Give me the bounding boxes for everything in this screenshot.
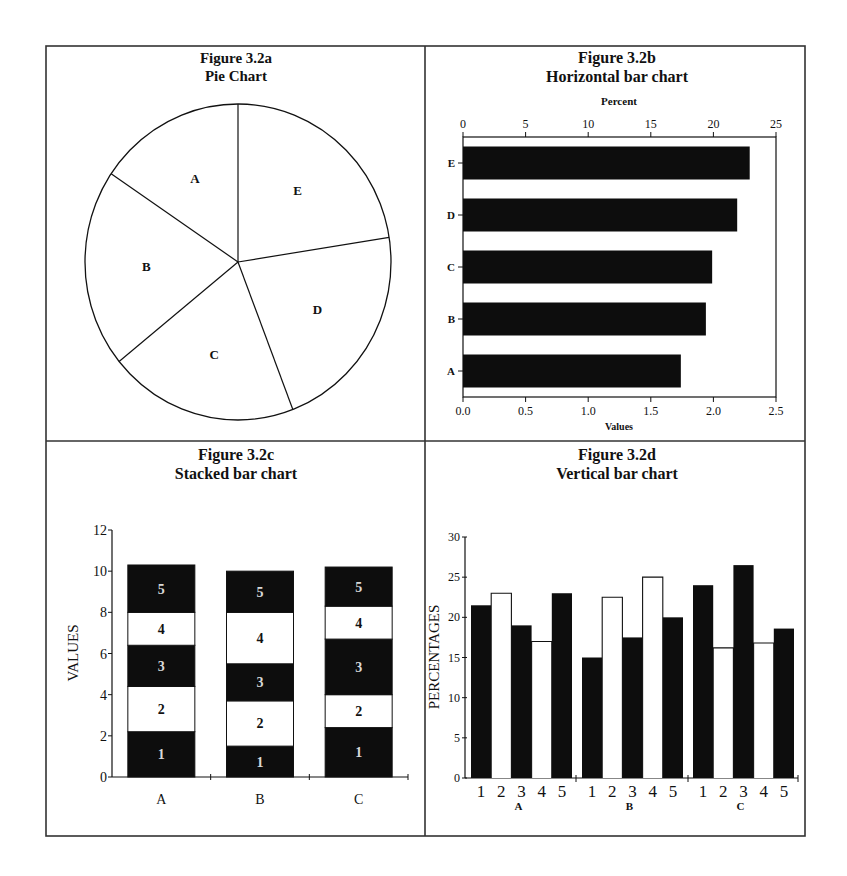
panel-c-subtitle: Stacked bar chart bbox=[175, 465, 298, 482]
segment-label: 2 bbox=[355, 704, 362, 719]
segment-label: 2 bbox=[158, 702, 165, 717]
y-tick-label: 8 bbox=[100, 605, 107, 620]
bar-B bbox=[463, 303, 706, 336]
sub-category-label: 1 bbox=[699, 782, 708, 801]
x-tick-label: 1.5 bbox=[643, 404, 658, 418]
sub-category-label: 1 bbox=[477, 782, 486, 801]
panel-d-title: Figure 3.2d bbox=[578, 446, 656, 464]
segment-label: 5 bbox=[158, 582, 165, 597]
sub-category-label: 2 bbox=[719, 782, 728, 801]
sub-category-label: 4 bbox=[759, 782, 768, 801]
y-tick-label: 30 bbox=[448, 530, 460, 544]
y-category-label: D bbox=[447, 209, 455, 221]
bar-B-4 bbox=[643, 577, 663, 778]
x-tick-label: 2.0 bbox=[706, 404, 721, 418]
segment-label: 1 bbox=[158, 747, 165, 762]
bar-E bbox=[463, 147, 750, 180]
figure-sheet: Figure 3.2a Pie Chart Figure 3.2b Horizo… bbox=[0, 0, 847, 876]
pie-chart: EDCBA bbox=[85, 104, 391, 420]
segment-label: 1 bbox=[257, 755, 264, 770]
sub-category-label: 5 bbox=[669, 782, 678, 801]
bar-B-2 bbox=[602, 597, 622, 778]
panel-b-subtitle: Horizontal bar chart bbox=[546, 68, 689, 85]
y-category-label: E bbox=[448, 157, 455, 169]
segment-label: 4 bbox=[355, 616, 362, 631]
bar-A-2 bbox=[491, 593, 511, 778]
y-tick-label: 10 bbox=[448, 691, 460, 705]
pie-slice-label: E bbox=[293, 183, 302, 198]
bar-C-4 bbox=[754, 643, 774, 778]
y-category-label: C bbox=[447, 261, 455, 273]
bar-C-2 bbox=[713, 648, 733, 778]
panel-a-title: Figure 3.2a bbox=[200, 50, 273, 66]
bar-D bbox=[463, 199, 737, 232]
vertical-y-axis-label: PERCENTAGES bbox=[426, 605, 442, 710]
y-category-label: B bbox=[448, 313, 456, 325]
vertical-bar-chart: 05101520253012345A12345B12345C bbox=[448, 530, 798, 812]
segment-label: 5 bbox=[257, 585, 264, 600]
bar-B-5 bbox=[663, 617, 683, 778]
bar-A-5 bbox=[552, 593, 572, 778]
sub-category-label: 3 bbox=[628, 782, 637, 801]
stacked-y-axis-label: VALUES bbox=[65, 624, 81, 681]
y-tick-label: 6 bbox=[100, 647, 107, 662]
bar-C-3 bbox=[733, 565, 753, 778]
group-label: C bbox=[737, 800, 745, 812]
y-tick-label: 4 bbox=[100, 688, 107, 703]
pie-slice-label: A bbox=[190, 171, 200, 186]
values-axis-label: Values bbox=[605, 421, 633, 432]
x2-tick-label: 5 bbox=[523, 117, 529, 131]
bar-A-4 bbox=[532, 641, 552, 778]
x-tick-label: 0.0 bbox=[456, 404, 471, 418]
bar-A-1 bbox=[471, 605, 491, 778]
x2-tick-label: 10 bbox=[582, 117, 594, 131]
stacked-bar-chart: 024681012A12345B12345C12345 bbox=[93, 523, 408, 807]
bar-C-5 bbox=[774, 629, 794, 778]
segment-label: 1 bbox=[355, 745, 362, 760]
bar-C-1 bbox=[693, 585, 713, 778]
x2-tick-label: 0 bbox=[460, 117, 466, 131]
y-tick-label: 10 bbox=[93, 564, 107, 579]
x2-tick-label: 20 bbox=[707, 117, 719, 131]
y-tick-label: 5 bbox=[454, 731, 460, 745]
x-category-label: C bbox=[354, 792, 363, 807]
x-tick-label: 2.5 bbox=[769, 404, 784, 418]
bar-B-1 bbox=[582, 658, 602, 779]
panel-b-title: Figure 3.2b bbox=[578, 49, 656, 67]
segment-label: 3 bbox=[257, 675, 264, 690]
sub-category-label: 4 bbox=[537, 782, 546, 801]
segment-label: 2 bbox=[257, 716, 264, 731]
horizontal-bar-chart: 0.00.51.01.52.02.50510152025ABCDE bbox=[447, 117, 783, 418]
panel-d-subtitle: Vertical bar chart bbox=[556, 465, 678, 482]
sub-category-label: 1 bbox=[588, 782, 597, 801]
y-tick-label: 12 bbox=[93, 523, 107, 538]
pie-slice-label: B bbox=[142, 259, 151, 274]
sub-category-label: 5 bbox=[558, 782, 567, 801]
segment-label: 3 bbox=[158, 659, 165, 674]
x-category-label: B bbox=[255, 792, 264, 807]
pie-slice-label: D bbox=[313, 302, 322, 317]
x-tick-label: 1.0 bbox=[581, 404, 596, 418]
y-tick-label: 15 bbox=[448, 651, 460, 665]
percent-axis-label: Percent bbox=[601, 95, 637, 107]
segment-label: 3 bbox=[355, 660, 362, 675]
bar-B-3 bbox=[622, 637, 642, 778]
segment-label: 4 bbox=[257, 631, 264, 646]
x2-tick-label: 25 bbox=[770, 117, 782, 131]
y-tick-label: 0 bbox=[454, 771, 460, 785]
group-label: A bbox=[515, 800, 523, 812]
pie-slice-label: C bbox=[210, 347, 219, 362]
sub-category-label: 3 bbox=[739, 782, 748, 801]
group-label: B bbox=[626, 800, 634, 812]
y-tick-label: 20 bbox=[448, 610, 460, 624]
segment-label: 5 bbox=[355, 580, 362, 595]
panel-c-title: Figure 3.2c bbox=[198, 446, 274, 464]
y-category-label: A bbox=[447, 365, 455, 377]
bar-A bbox=[463, 355, 681, 388]
sub-category-label: 5 bbox=[780, 782, 789, 801]
x2-tick-label: 15 bbox=[645, 117, 657, 131]
sub-category-label: 2 bbox=[608, 782, 617, 801]
sub-category-label: 4 bbox=[648, 782, 657, 801]
y-tick-label: 0 bbox=[100, 770, 107, 785]
y-tick-label: 25 bbox=[448, 570, 460, 584]
